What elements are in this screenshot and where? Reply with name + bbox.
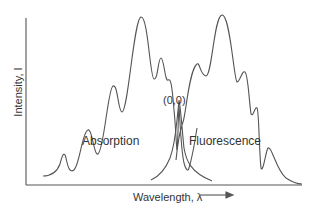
zero-zero-transition-label: (0,0) (163, 94, 186, 106)
x-axis-arrow-head (226, 192, 233, 198)
fluorescence-label: Fluorescence (189, 134, 261, 148)
chart-plot-area (0, 0, 314, 211)
absorption-label: Absorption (82, 134, 139, 148)
y-axis-label: Intensity, I (12, 52, 24, 132)
x-axis-label: Wavelength, λ (133, 191, 202, 203)
spectrum-chart: Intensity, I Wavelength, λ Absorption Fl… (0, 0, 314, 211)
